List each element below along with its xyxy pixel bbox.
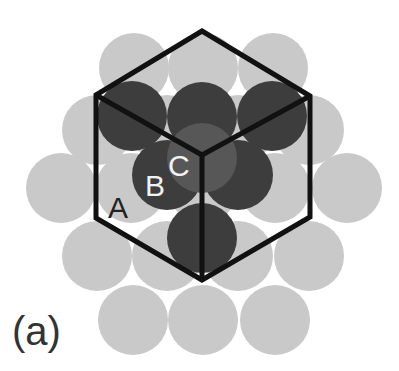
sphere-layer-a — [240, 285, 310, 355]
sphere-layer-a — [26, 153, 96, 223]
sphere-layer-a — [312, 153, 382, 223]
layer-b-label: B — [145, 169, 165, 202]
panel-label: (a) — [12, 309, 61, 353]
layer-c-label: C — [168, 149, 190, 182]
sphere-layer-a — [98, 285, 168, 355]
abc-stacking-diagram: A B C (a) — [0, 0, 399, 371]
layer-a-label: A — [108, 191, 128, 224]
sphere-layer-a — [168, 285, 238, 355]
